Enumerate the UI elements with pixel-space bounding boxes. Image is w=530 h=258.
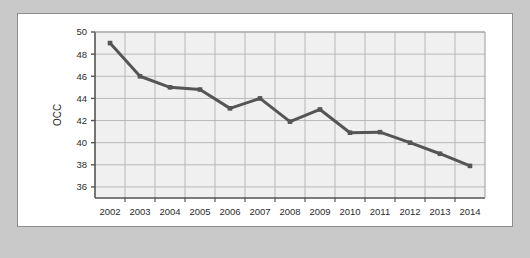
- ytick-label: 40: [76, 137, 87, 148]
- data-point-marker: [198, 87, 203, 92]
- ytick-label: 44: [76, 93, 87, 104]
- data-point-marker: [318, 107, 323, 112]
- ytick-label: 36: [76, 181, 87, 192]
- line-chart: 3638404244464850 20022003200420052006200…: [19, 15, 511, 225]
- data-point-marker: [438, 151, 443, 156]
- ytick-label: 50: [76, 26, 87, 37]
- ytick-label: 38: [76, 159, 87, 170]
- ytick-label: 48: [76, 49, 87, 60]
- data-point-marker: [258, 96, 263, 101]
- y-axis-tick-labels: 3638404244464850: [76, 26, 87, 192]
- data-point-marker: [138, 74, 143, 79]
- xtick-label: 2005: [189, 206, 210, 217]
- ytick-label: 42: [76, 115, 87, 126]
- xtick-label: 2014: [459, 206, 480, 217]
- ytick-label: 46: [76, 71, 87, 82]
- xtick-label: 2004: [159, 206, 180, 217]
- data-point-marker: [348, 130, 353, 135]
- xtick-label: 2010: [339, 206, 360, 217]
- figure-outer-frame: 3638404244464850 20022003200420052006200…: [0, 0, 530, 258]
- xtick-label: 2013: [429, 206, 450, 217]
- plot-area-background: [95, 32, 485, 198]
- data-point-marker: [468, 164, 473, 169]
- xtick-label: 2006: [219, 206, 240, 217]
- y-axis-title: OCC: [52, 104, 63, 126]
- x-axis-tick-labels: 2002200320042005200620072008200920102011…: [99, 206, 480, 217]
- data-point-marker: [288, 119, 293, 124]
- xtick-label: 2003: [129, 206, 150, 217]
- xtick-label: 2011: [370, 206, 390, 217]
- xtick-label: 2007: [249, 206, 270, 217]
- data-point-marker: [168, 85, 173, 90]
- data-point-marker: [378, 130, 383, 135]
- data-point-marker: [408, 140, 413, 145]
- y-axis-title-text: OCC: [52, 104, 63, 126]
- xtick-label: 2012: [399, 206, 420, 217]
- xtick-label: 2008: [279, 206, 300, 217]
- xtick-label: 2009: [309, 206, 330, 217]
- xtick-label: 2002: [99, 206, 120, 217]
- data-point-marker: [108, 41, 113, 46]
- data-point-marker: [228, 106, 233, 111]
